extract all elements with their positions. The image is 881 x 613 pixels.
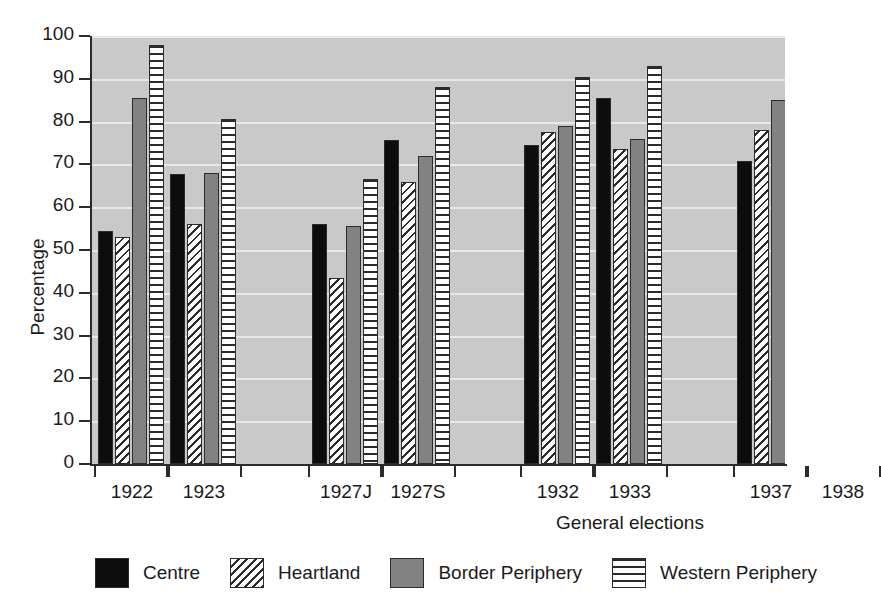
x-tick-label-1937: 1937 (750, 481, 792, 503)
x-tick-mark (382, 466, 384, 477)
bar-1922-western-periphery (149, 45, 164, 464)
bar-1933-heartland (613, 149, 628, 464)
legend-swatch-icon (230, 558, 264, 588)
bar-1933-border-periphery (630, 139, 645, 464)
y-tick-mark (79, 463, 90, 465)
x-tick-mark (454, 466, 456, 477)
bar-1927J-border-periphery (346, 226, 361, 464)
y-tick-label: 90 (53, 66, 74, 88)
x-tick-label-1932: 1932 (537, 481, 579, 503)
x-tick-mark (594, 466, 596, 477)
x-tick-mark (94, 466, 96, 477)
bar-group-1922 (98, 36, 166, 464)
bar-1932-heartland (541, 132, 556, 464)
bar-1927S-western-periphery (435, 87, 450, 464)
y-axis-title: Percentage (27, 197, 49, 377)
bar-1923-heartland (187, 224, 202, 464)
x-tick-mark (592, 466, 594, 477)
x-tick-mark (168, 466, 170, 477)
legend-label: Centre (143, 562, 200, 584)
bar-group-1933 (596, 36, 664, 464)
y-tick-label: 60 (53, 194, 74, 216)
bar-1937-border-periphery (771, 100, 785, 464)
bar-1937-heartland (754, 130, 769, 464)
bar-1923-border-periphery (204, 173, 219, 464)
legend-label: Border Periphery (438, 562, 582, 584)
bar-1927J-centre (312, 224, 327, 464)
bar-1923-centre (170, 174, 185, 464)
legend-swatch-icon (612, 558, 646, 588)
y-tick-mark (79, 420, 90, 422)
y-tick-label: 0 (63, 451, 74, 473)
y-tick-mark (79, 206, 90, 208)
y-tick-label: 20 (53, 365, 74, 387)
bar-1933-western-periphery (647, 66, 662, 464)
bar-1927S-heartland (401, 182, 416, 464)
x-tick-label-1922: 1922 (111, 481, 153, 503)
y-tick-mark (79, 249, 90, 251)
x-tick-mark (380, 466, 382, 477)
legend-entry-border-periphery[interactable]: Border Periphery (390, 558, 612, 588)
legend-swatch-icon (390, 558, 424, 588)
y-tick-mark (79, 292, 90, 294)
bar-1937-centre (737, 161, 752, 464)
y-tick-label: 100 (42, 23, 74, 45)
y-tick-mark (79, 121, 90, 123)
x-tick-label-1927S: 1927S (391, 481, 446, 503)
bar-1933-centre (596, 98, 611, 464)
x-tick-mark (666, 466, 668, 477)
legend-swatch-icon (95, 558, 129, 588)
x-tick-mark (240, 466, 242, 477)
x-tick-label-1927J: 1927J (320, 481, 372, 503)
bar-1922-heartland (115, 237, 130, 464)
x-tick-mark (308, 466, 310, 477)
bar-1932-western-periphery (575, 77, 590, 464)
x-tick-label-1923: 1923 (183, 481, 225, 503)
x-tick-mark (807, 466, 809, 477)
bar-group-1932 (524, 36, 592, 464)
bar-1922-centre (98, 231, 113, 464)
bar-1923-western-periphery (221, 119, 236, 464)
legend-entry-centre[interactable]: Centre (95, 558, 230, 588)
bar-1927S-border-periphery (418, 156, 433, 464)
y-tick-label: 80 (53, 109, 74, 131)
y-tick-mark (79, 78, 90, 80)
y-tick-label: 10 (53, 408, 74, 430)
bar-group-1927S (384, 36, 452, 464)
x-tick-mark (733, 466, 735, 477)
bar-1927J-western-periphery (363, 179, 378, 464)
x-axis-line (90, 464, 787, 466)
y-tick-label: 40 (53, 280, 74, 302)
bar-group-1923 (170, 36, 238, 464)
bar-1932-centre (524, 145, 539, 464)
y-tick-mark (79, 335, 90, 337)
bar-1922-border-periphery (132, 98, 147, 464)
y-tick-mark (79, 377, 90, 379)
y-tick-label: 70 (53, 151, 74, 173)
x-tick-label-1933: 1933 (609, 481, 651, 503)
legend-entry-western-periphery[interactable]: Western Periphery (612, 558, 847, 588)
y-tick-mark (79, 163, 90, 165)
bar-group-1937 (737, 36, 785, 464)
legend: CentreHeartlandBorder PeripheryWestern P… (95, 552, 755, 594)
y-tick-label: 30 (53, 323, 74, 345)
bar-1927J-heartland (329, 278, 344, 464)
legend-label: Heartland (278, 562, 360, 584)
bar-1932-border-periphery (558, 126, 573, 464)
x-tick-label-1938: 1938 (822, 481, 864, 503)
y-tick-mark (79, 35, 90, 37)
y-tick-label: 50 (53, 237, 74, 259)
legend-label: Western Periphery (660, 562, 817, 584)
x-tick-mark (520, 466, 522, 477)
x-tick-mark (805, 466, 807, 477)
bar-1927S-centre (384, 140, 399, 464)
plot-area (92, 36, 785, 464)
x-tick-mark (166, 466, 168, 477)
x-axis-title: General elections (470, 512, 790, 534)
legend-entry-heartland[interactable]: Heartland (230, 558, 390, 588)
bar-group-1927J (312, 36, 380, 464)
